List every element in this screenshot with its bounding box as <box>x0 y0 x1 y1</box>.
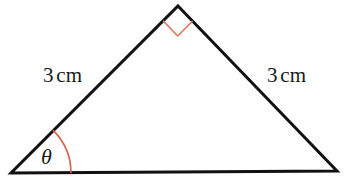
side-length-value-left: 3 <box>43 63 56 87</box>
side-length-unit-right: cm <box>280 63 306 87</box>
side-length-unit-left: cm <box>56 63 82 87</box>
angle-arc-marker-icon <box>53 131 71 173</box>
geometry-figure: 3cm 3cm θ <box>0 0 346 192</box>
side-length-label-left: 3cm <box>43 65 82 86</box>
angle-label-theta: θ <box>41 146 52 168</box>
right-angle-marker-icon <box>163 21 192 36</box>
side-length-label-right: 3cm <box>267 65 306 86</box>
side-length-value-right: 3 <box>267 63 280 87</box>
